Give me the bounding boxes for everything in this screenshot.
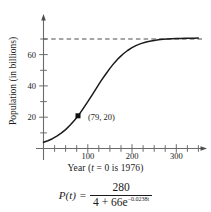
x-tick-label-200: 200 [126,151,139,161]
y-tick-label-20: 20 [20,112,36,122]
formula-denominator-exponent: −0.0238t [128,196,150,202]
x-tick-label-300: 300 [170,151,183,161]
x-axis-title-prefix: Year ( [68,163,92,173]
formula-equals-sign: = [80,190,86,201]
y-axis-arrowhead [41,14,46,21]
formula-left-hand-side: P(t) [59,190,76,201]
logistic-curve [44,38,199,142]
x-tick-label-100: 100 [81,151,94,161]
y-tick-label-40: 40 [20,81,36,91]
logistic-growth-chart [0,0,211,212]
x-axis-title: Year (t = 0 is 1976) [0,163,211,173]
formula-expression: P(t) = 280 4 + 66e−0.0238t [0,182,211,208]
y-tick-label-60: 60 [20,50,36,60]
formula-fraction: 280 4 + 66e−0.0238t [90,182,152,208]
x-axis-arrowhead [201,146,208,151]
data-point-marker [76,113,81,118]
x-axis-title-suffix: = 0 is 1976) [94,163,143,173]
y-axis-title: Population (in billions) [8,16,18,146]
data-point-label: (79, 20) [88,112,115,122]
formula-denominator: 4 + 66e−0.0238t [90,196,152,209]
formula-numerator: 280 [110,182,133,195]
formula-denominator-base: 4 + 66e [93,196,128,208]
figure-container: 100 200 300 20 40 60 (79, 20) Year (t = … [0,0,211,212]
